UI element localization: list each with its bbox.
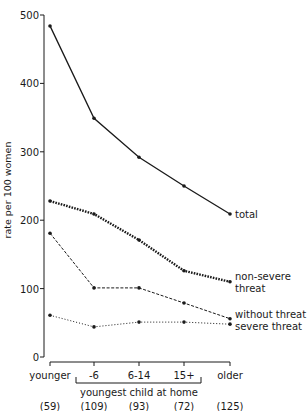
y-tick-label: 0: [33, 352, 39, 363]
data-point: [137, 238, 141, 242]
series-label: non-severe: [235, 271, 291, 282]
category-count: (109): [81, 401, 108, 411]
data-point: [228, 317, 232, 321]
data-point: [228, 322, 232, 326]
data-point: [92, 325, 96, 329]
series-labels: totalnon-severethreatwithout threatsever…: [235, 209, 306, 332]
data-point: [48, 24, 52, 28]
data-point: [228, 212, 232, 216]
series-label: threat: [235, 283, 265, 294]
x-tick-label: 6-14: [128, 370, 151, 381]
y-tick-label: 500: [20, 10, 39, 21]
category-count: (59): [40, 401, 61, 411]
line-chart: 0100200300400500rate per 100 womenyounge…: [0, 0, 308, 411]
data-point: [137, 320, 141, 324]
data-point: [182, 320, 186, 324]
series-label: severe threat: [235, 321, 302, 332]
category-count: (93): [129, 401, 150, 411]
data-point: [92, 116, 96, 120]
data-point: [48, 231, 52, 235]
category-count: (125): [217, 401, 244, 411]
data-point: [182, 301, 186, 305]
axes: 0100200300400500rate per 100 womenyounge…: [2, 10, 244, 411]
bracket-label: youngest child at home: [80, 387, 198, 398]
data-point: [92, 286, 96, 290]
series-label: total: [235, 209, 258, 220]
x-tick-label: younger: [29, 370, 71, 381]
data-point: [182, 184, 186, 188]
x-tick-label: -6: [89, 370, 99, 381]
data-point: [137, 286, 141, 290]
y-axis-label: rate per 100 women: [2, 142, 13, 239]
data-point: [92, 212, 96, 216]
data-point: [137, 155, 141, 159]
series-label: without threat: [235, 309, 306, 320]
chart-canvas: 0100200300400500rate per 100 womenyounge…: [0, 0, 308, 411]
y-tick-label: 100: [20, 284, 39, 295]
data-point: [48, 313, 52, 317]
series-group: [48, 24, 232, 329]
y-tick-label: 200: [20, 215, 39, 226]
y-tick-label: 400: [20, 78, 39, 89]
data-point: [182, 269, 186, 273]
data-point: [48, 199, 52, 203]
data-point: [228, 280, 232, 284]
series-line-total: [50, 26, 230, 214]
y-tick-label: 300: [20, 147, 39, 158]
category-count: (72): [174, 401, 195, 411]
x-tick-label: older: [217, 370, 243, 381]
x-tick-label: 15+: [173, 370, 194, 381]
